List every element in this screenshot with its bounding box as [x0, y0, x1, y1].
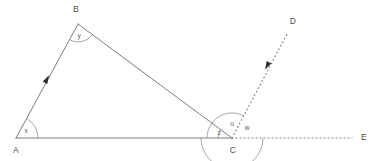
angle-label-u: u	[230, 120, 234, 127]
angle-arc-y	[69, 35, 92, 42]
vertex-label-c: C	[230, 145, 236, 155]
vertex-label-e: E	[361, 132, 367, 142]
direction-arrow-cd	[265, 61, 271, 70]
angle-arc-u	[207, 113, 244, 138]
vertex-label-a: A	[13, 145, 19, 155]
vertex-label-d: D	[290, 16, 296, 26]
angle-label-z: z	[217, 129, 220, 136]
ray-cd-dotted	[232, 32, 288, 138]
segment-bc	[78, 24, 232, 138]
geometry-canvas: A B C D E x y z u w	[0, 0, 385, 161]
direction-arrow-ab	[43, 75, 49, 84]
geometry-figure: A B C D E x y z u w	[0, 0, 385, 161]
vertex-label-b: B	[73, 4, 79, 14]
angle-label-y: y	[77, 32, 81, 40]
angle-label-x: x	[24, 127, 28, 134]
angle-arc-x	[27, 119, 38, 138]
angle-label-w: w	[244, 124, 250, 131]
